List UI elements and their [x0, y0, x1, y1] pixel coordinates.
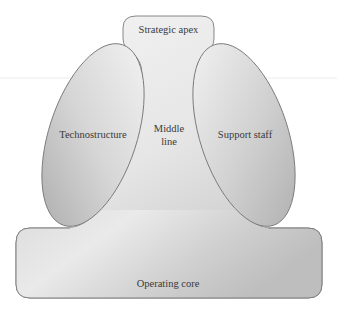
org-structure-diagram: Strategic apex Technostructure Middle li… [0, 0, 337, 313]
operating-core-label: Operating core [137, 278, 200, 289]
support-staff-label: Support staff [218, 129, 273, 140]
middle-line-label-2: line [161, 136, 177, 147]
middle-line-label-1: Middle [154, 123, 185, 134]
technostructure-label: Technostructure [59, 129, 127, 140]
strategic-apex-label: Strategic apex [139, 24, 200, 35]
